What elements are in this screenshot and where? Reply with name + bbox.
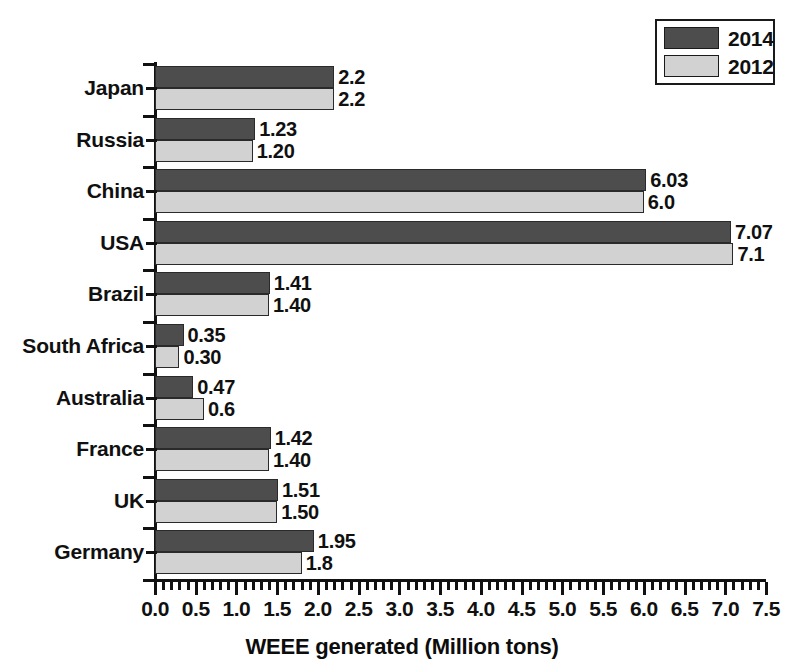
x-tick-major [521,582,524,595]
x-tick-minor [741,582,744,590]
y-tick-center [146,448,157,451]
x-tick-minor [700,582,703,590]
x-tick-minor [366,582,369,590]
x-tick-minor [252,582,255,590]
bar-value-uk-2012: 1.50 [281,500,319,523]
bar-value-south-africa-2014: 0.35 [188,324,226,347]
x-tick-minor [659,582,662,590]
x-tick-minor [586,582,589,590]
y-tick-center [146,293,157,296]
bar-france-2014 [155,427,271,449]
bar-russia-2014 [155,118,255,140]
x-tick-minor [618,582,621,590]
x-tick-minor [170,582,173,590]
x-tick-minor [447,582,450,590]
bar-value-brazil-2012: 1.40 [273,294,311,317]
bar-value-australia-2014: 0.47 [197,375,235,398]
bar-value-japan-2012: 2.2 [338,88,365,111]
x-tick-major [439,582,442,595]
x-tick-minor [569,582,572,590]
y-category-label-china: China [87,179,144,203]
x-tick-minor [423,582,426,590]
y-tick-boundary [143,269,157,272]
bar-south-africa-2012 [155,346,179,368]
x-tick-minor [292,582,295,590]
x-tick-minor [594,582,597,590]
x-tick-minor [333,582,336,590]
x-tick-major [317,582,320,595]
x-tick-major [195,582,198,595]
x-tick-minor [732,582,735,590]
x-tick-minor [244,582,247,590]
y-tick-boundary [143,218,157,221]
y-tick-boundary [143,115,157,118]
y-category-label-south-africa: South Africa [22,334,144,358]
x-tick-minor [537,582,540,590]
x-tick-minor [374,582,377,590]
x-tick-minor [610,582,613,590]
x-tick-minor [341,582,344,590]
bar-value-germany-2014: 1.95 [318,530,356,553]
x-tick-minor [390,582,393,590]
legend-swatch-2012 [664,55,719,77]
legend-swatch-2014 [664,27,719,49]
x-tick-minor [496,582,499,590]
legend-label-2014: 2014 [728,28,774,49]
x-tick-minor [757,582,760,590]
y-tick-boundary [143,424,157,427]
bar-usa-2014 [155,221,731,243]
x-tick-minor [350,582,353,590]
bar-france-2012 [155,449,269,471]
bar-china-2012 [155,191,644,213]
y-tick-center [146,139,157,142]
bar-brazil-2014 [155,272,270,294]
bar-australia-2012 [155,398,204,420]
y-tick-center [146,345,157,348]
x-tick-minor [415,582,418,590]
x-tick-minor [472,582,475,590]
x-axis-title: WEEE generated (Million tons) [0,634,804,660]
y-tick-boundary [143,166,157,169]
x-tick-label-1.5: 1.5 [263,597,291,621]
bar-value-uk-2014: 1.51 [282,478,320,501]
x-tick-minor [301,582,304,590]
y-category-label-germany: Germany [54,540,144,564]
y-tick-boundary [143,476,157,479]
bar-value-russia-2014: 1.23 [259,117,297,140]
x-tick-major [398,582,401,595]
x-tick-label-0.0: 0.0 [141,597,169,621]
bar-chart: 2014 2012 2.22.21.231.206.036.07.077.11.… [0,0,804,670]
x-tick-major [235,582,238,595]
y-category-label-australia: Australia [56,386,144,410]
x-tick-minor [219,582,222,590]
x-tick-major [276,582,279,595]
x-tick-label-5.0: 5.0 [548,597,576,621]
x-tick-minor [545,582,548,590]
x-tick-minor [382,582,385,590]
x-tick-minor [268,582,271,590]
x-tick-major [358,582,361,595]
y-tick-boundary [143,373,157,376]
y-tick-center [146,190,157,193]
x-tick-minor [627,582,630,590]
x-tick-label-7.5: 7.5 [752,597,780,621]
x-tick-minor [284,582,287,590]
x-tick-major [561,582,564,595]
x-tick-minor [667,582,670,590]
bar-value-japan-2014: 2.2 [338,66,365,89]
x-tick-minor [651,582,654,590]
x-tick-minor [749,582,752,590]
x-tick-minor [692,582,695,590]
x-tick-minor [407,582,410,590]
legend-label-2012: 2012 [728,56,774,77]
x-tick-minor [162,582,165,590]
y-category-label-uk: UK [114,489,144,513]
y-tick-boundary [143,527,157,530]
bar-australia-2014 [155,376,193,398]
x-tick-major [602,582,605,595]
y-category-label-russia: Russia [76,128,144,152]
x-tick-minor [488,582,491,590]
bar-uk-2014 [155,479,278,501]
bar-value-usa-2014: 7.07 [735,220,773,243]
y-category-label-japan: Japan [84,76,144,100]
